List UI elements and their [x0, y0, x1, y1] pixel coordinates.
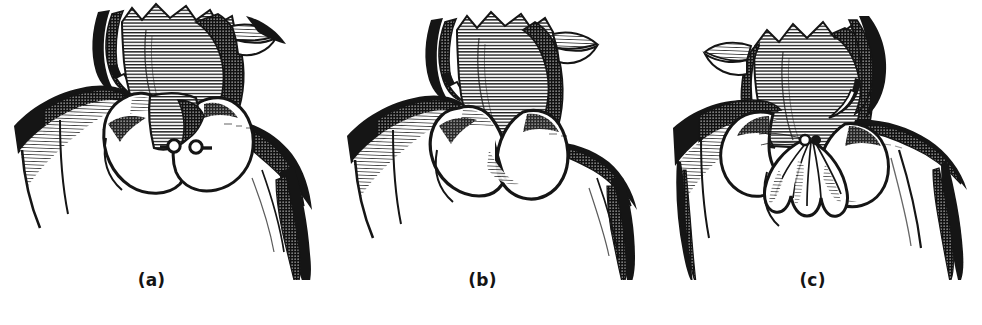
figure-b-drawing — [327, 0, 654, 280]
figure-a-body — [14, 4, 312, 280]
figure-caption-c: (c) — [649, 272, 976, 289]
figure-c-drawing — [655, 0, 982, 280]
figure-b-body — [347, 12, 637, 280]
figure-panel-c: (c) — [655, 0, 982, 325]
figure-c-body — [673, 16, 967, 280]
figure-panel-b: (b) — [327, 0, 654, 325]
figure-a-drawing — [0, 0, 327, 280]
figure-panel-a: (a) — [0, 0, 327, 325]
figure-caption-b: (b) — [319, 272, 646, 289]
figure-caption-a: (a) — [0, 272, 315, 289]
collar-illustration-plate: (a) — [0, 0, 982, 325]
